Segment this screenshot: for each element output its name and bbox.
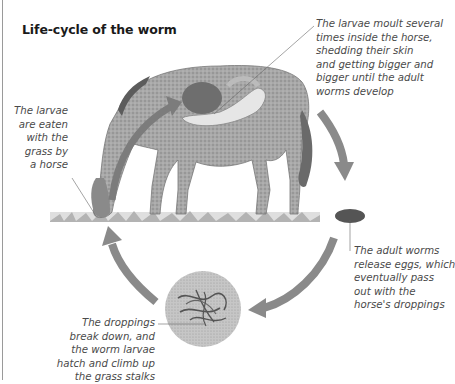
horse-illustration: [91, 66, 312, 218]
cycle-arrow-to-circle: [248, 238, 334, 318]
cycle-arrow-up: [102, 226, 156, 302]
cycle-arrow-down: [320, 112, 354, 181]
caption-larvae-moult: The larvae moult several times inside th…: [316, 17, 443, 98]
caption-adult-worms-eggs: The adult worms release eggs, which even…: [354, 244, 455, 312]
larvae-magnified-circle: [165, 271, 241, 347]
caption-larvae-eaten: The larvae are eaten with the grass by a…: [14, 104, 68, 172]
caption-droppings-hatch: The droppings break down, and the worm l…: [57, 316, 155, 384]
